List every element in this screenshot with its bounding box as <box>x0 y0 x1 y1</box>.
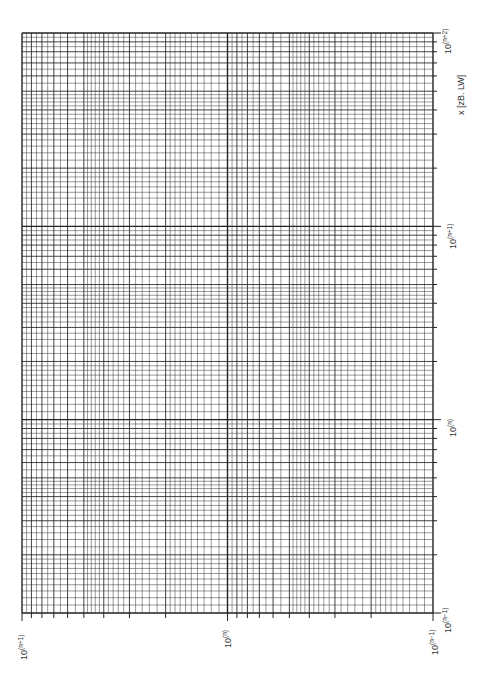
y-axis-gridlines <box>22 33 433 613</box>
y-tick-label-n-plus-1: 10(n+1) <box>17 635 29 660</box>
y-tick-label-n-minus-1: 10(n−1) <box>428 630 440 655</box>
x-tick-label-n-minus-1: 10(n−1) <box>441 608 453 633</box>
x-tick-label-n: 10(n) <box>446 419 458 437</box>
y-tick-label-n: 10(n) <box>221 630 233 648</box>
log-log-grid <box>0 0 477 681</box>
x-tick-label-n-plus-1: 10(n+1) <box>446 224 458 249</box>
x-tick-label-n-plus-2: 10(n+2) <box>441 29 453 54</box>
x-axis-title: x [zB. LW] <box>456 75 466 115</box>
